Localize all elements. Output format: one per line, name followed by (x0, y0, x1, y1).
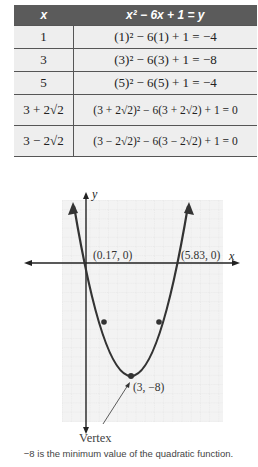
cell-expression: (5)² − 6(5) + 1 = −4 (74, 72, 258, 95)
parabola-graph: y x (0.17, 0) (5.83, 0) (3, −8) Vertex (0, 180, 257, 450)
root-right-label: (5.83, 0) (181, 249, 220, 262)
x-axis-label: x (228, 249, 235, 263)
table-row: 3 − 2√2 (3 − 2√2)² − 6(3 − 2√2) + 1 = 0 (14, 126, 257, 157)
vertex-callout-text: Vertex (79, 431, 112, 445)
table-row: 1 (1)² − 6(1) + 1 = −4 (14, 26, 257, 49)
cell-x: 3 − 2√2 (14, 126, 74, 157)
cell-x: 1 (14, 26, 74, 49)
values-table: x x² − 6x + 1 = y 1 (1)² − 6(1) + 1 = −4… (14, 5, 257, 157)
x-axis-left-arrow-icon (24, 260, 32, 266)
cell-x: 5 (14, 72, 74, 95)
cell-expression: (3)² − 6(3) + 1 = −8 (74, 49, 258, 72)
cell-expression: (1)² − 6(1) + 1 = −4 (74, 26, 258, 49)
cell-expression: (3 − 2√2)² − 6(3 − 2√2) + 1 = 0 (74, 126, 258, 157)
header-x: x (14, 5, 74, 26)
point-x1 (101, 319, 107, 325)
vertex-label: (3, −8) (133, 381, 165, 394)
cell-x: 3 + 2√2 (14, 95, 74, 126)
caption: −8 is the minimum value of the quadratic… (0, 448, 257, 459)
y-axis-arrow-icon (83, 192, 89, 199)
cell-x: 3 (14, 49, 74, 72)
table-row: 3 (3)² − 6(3) + 1 = −8 (14, 49, 257, 72)
point-x5 (156, 319, 162, 325)
cell-expression: (3 + 2√2)² − 6(3 + 2√2) + 1 = 0 (74, 95, 258, 126)
table-row: 3 + 2√2 (3 + 2√2)² − 6(3 + 2√2) + 1 = 0 (14, 95, 257, 126)
table-row: 5 (5)² − 6(5) + 1 = −4 (14, 72, 257, 95)
vertex-point (128, 373, 134, 379)
y-axis-label: y (91, 187, 98, 201)
header-expression: x² − 6x + 1 = y (74, 5, 258, 26)
root-left-label: (0.17, 0) (93, 249, 132, 262)
